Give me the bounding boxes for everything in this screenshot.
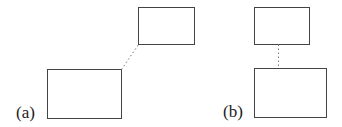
diagram-canvas: (a) (b) (0, 0, 342, 127)
panel-a: (a) (16, 8, 195, 123)
panel-b: (b) (223, 8, 327, 122)
panel-a-small-box (139, 8, 195, 45)
panel-b-label: (b) (223, 102, 243, 121)
panel-b-small-box (255, 8, 310, 45)
panel-a-large-box (48, 70, 122, 119)
panel-a-label: (a) (16, 103, 35, 122)
panel-a-connector (122, 45, 139, 70)
panel-b-large-box (255, 69, 327, 118)
